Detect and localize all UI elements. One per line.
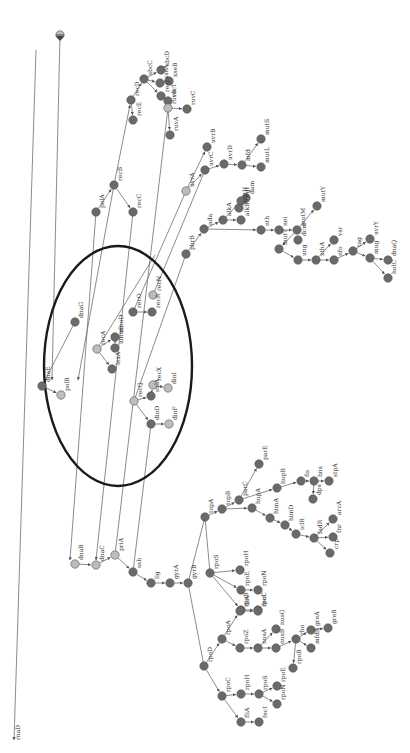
tree-edge — [213, 576, 238, 606]
node-feci — [255, 718, 263, 726]
node-hns — [310, 477, 318, 485]
node-label: recA — [99, 330, 106, 345]
tree-edge — [172, 108, 182, 109]
node-label: rpoH — [242, 550, 250, 566]
node-label: uvrA — [188, 172, 195, 187]
node-tag — [349, 247, 357, 255]
tree-edge — [208, 229, 256, 230]
node-ada — [200, 225, 208, 233]
node-label: sbcD — [163, 51, 170, 66]
node-label: nusG — [278, 609, 285, 625]
node-label: uvrY — [372, 220, 379, 235]
node-label: phrB — [188, 234, 196, 250]
node-label: parE — [261, 445, 269, 460]
node-dps — [309, 495, 317, 503]
node-dnac — [92, 561, 100, 569]
node-label: mutS — [263, 119, 270, 135]
node-label: dnaB — [77, 544, 84, 560]
tree-edge — [317, 541, 326, 550]
node-label: dcm — [300, 223, 307, 236]
node-label: uvrC — [207, 151, 214, 166]
tree-edge — [374, 258, 383, 259]
node-dnag — [71, 318, 79, 326]
node-label: ada — [206, 214, 213, 225]
node-label: greB — [330, 609, 338, 624]
tree-edge — [131, 104, 132, 115]
node-label: mutT — [281, 229, 288, 245]
node-rpos — [255, 690, 263, 698]
node-label: fadR — [316, 519, 323, 534]
node-label: dinD — [153, 405, 160, 420]
node-label: umuC — [117, 326, 124, 344]
long-edge — [52, 35, 60, 380]
node-label: mutL — [263, 147, 270, 163]
tree-edge — [300, 641, 307, 645]
node-dnae — [38, 382, 46, 390]
node-rho — [292, 635, 300, 643]
node-reco — [129, 308, 137, 316]
node-mfdr — [307, 644, 315, 652]
node-label: fnr — [335, 524, 342, 533]
node-label: rpoN — [279, 684, 287, 700]
node-ung — [294, 256, 302, 264]
long-edge — [96, 212, 133, 560]
node-pola — [92, 208, 100, 216]
node-label: alkA — [225, 202, 232, 216]
node-label: rpoA — [224, 620, 232, 635]
node-label: ssb — [135, 558, 142, 568]
node-label: nth — [263, 216, 270, 226]
node-rpos — [206, 569, 214, 577]
edge-label: rnaD — [14, 725, 21, 740]
node-label: xseB — [171, 62, 178, 77]
node-crp — [326, 549, 334, 557]
node-label: gyrB — [190, 564, 198, 579]
node-rpoa — [218, 635, 226, 643]
node-label: xthA — [318, 241, 325, 256]
tree-edge — [168, 112, 169, 130]
long-edge — [188, 583, 204, 666]
node-ruvc — [183, 105, 191, 113]
node-recq — [130, 397, 138, 405]
node-label: nusB — [278, 628, 285, 644]
node-label: recB — [116, 166, 123, 181]
node-lexa — [108, 365, 116, 373]
node-dnab — [71, 560, 79, 568]
node-label: recD — [133, 81, 140, 96]
node-recc — [129, 208, 137, 216]
node-sbcc — [140, 75, 148, 83]
node-label: tag — [355, 237, 363, 247]
tree-edge — [283, 251, 294, 257]
tree-edge — [274, 520, 280, 523]
tree-edge — [206, 670, 219, 692]
node-label: rpoB — [242, 592, 250, 607]
tree-edge — [137, 574, 147, 580]
node-label: rho — [298, 624, 305, 635]
tree-edge — [226, 641, 236, 646]
node-label: mfd — [244, 149, 251, 161]
node-stpa — [325, 477, 333, 485]
node-hupa — [248, 504, 256, 512]
node-umuc — [111, 344, 119, 352]
node-gyra — [166, 579, 174, 587]
node-label: ogt — [243, 187, 251, 197]
node-label: dps — [315, 484, 323, 495]
tree-canvas: rnaD dnaGdnaEpolBrecAumuDumuClexArecOrec… — [0, 0, 410, 753]
node-label: recO — [135, 293, 142, 308]
node-mutl — [257, 163, 265, 171]
node-label: fis — [303, 470, 310, 477]
node-topb — [218, 505, 226, 513]
node-ruva — [166, 131, 174, 139]
node-label: rpoN — [260, 570, 268, 586]
node-label: mfdR — [313, 627, 320, 644]
node-rece — [129, 116, 137, 124]
node-label: iclR — [298, 518, 305, 530]
node-uvrc — [201, 166, 209, 174]
highlight-ellipse — [44, 246, 192, 486]
node-holc — [384, 274, 392, 282]
node-label: uvrD — [226, 145, 233, 160]
node-mfd — [238, 161, 246, 169]
node-label: alkB — [243, 202, 250, 216]
long-edge — [205, 517, 210, 573]
node-label: rpoH — [243, 674, 251, 690]
node-fadr — [310, 534, 318, 542]
